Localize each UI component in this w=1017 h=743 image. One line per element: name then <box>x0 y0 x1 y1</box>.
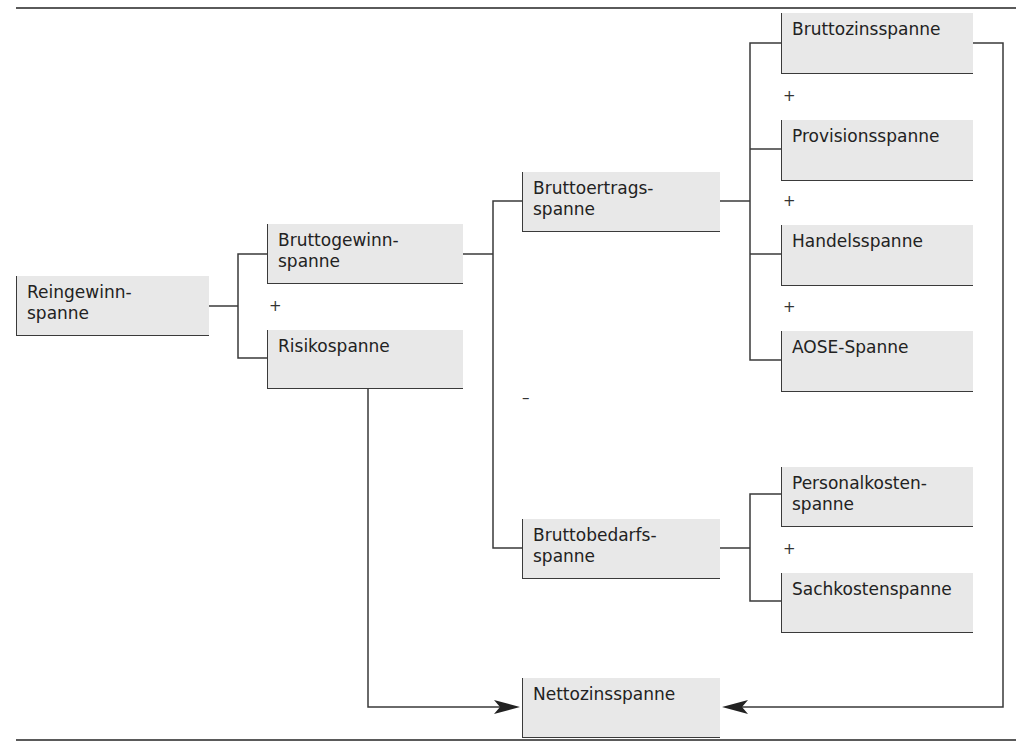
node-reingewinnspanne: Reingewinn- spanne <box>16 276 209 336</box>
operator-plus: + <box>783 542 796 557</box>
node-bruttogewinnspanne: Bruttogewinn- spanne <box>267 224 463 284</box>
arrow-right-icon <box>494 700 520 714</box>
node-personalkostenspanne: Personalkosten- spanne <box>781 467 973 527</box>
node-bruttobedarfsspanne: Bruttobedarfs- spanne <box>522 519 720 579</box>
node-sachkostenspanne: Sachkostenspanne <box>781 573 973 633</box>
node-risikospanne: Risikospanne <box>267 330 463 389</box>
operator-plus: + <box>783 89 796 104</box>
operator-plus: + <box>783 300 796 315</box>
node-nettozinsspanne: Nettozinsspanne <box>522 678 720 738</box>
node-provisionsspanne: Provisionsspanne <box>781 120 973 181</box>
node-handelsspanne: Handelsspanne <box>781 225 973 286</box>
node-aose-spanne: AOSE-Spanne <box>781 331 973 392</box>
arrow-left-icon <box>722 700 748 714</box>
top-rule <box>16 7 1016 9</box>
node-bruttoertragsspanne: Bruttoertrags- spanne <box>522 172 720 232</box>
operator-plus: + <box>783 194 796 209</box>
operator-minus: – <box>522 391 530 406</box>
node-bruttozinsspanne: Bruttozinsspanne <box>781 13 973 74</box>
bottom-rule <box>16 739 1016 741</box>
operator-plus: + <box>269 299 282 314</box>
